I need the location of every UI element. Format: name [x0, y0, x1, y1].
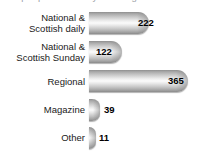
bar-value-magazine: 39 — [104, 99, 115, 121]
category-label-national-scottish-sunday: National & Scottish Sunday — [0, 41, 85, 63]
bar-other — [89, 127, 96, 149]
category-label-other: Other — [0, 132, 85, 143]
category-label-national-scottish-daily: National & Scottish daily — [0, 12, 85, 34]
chart-plot-area: National & Scottish daily 222 National &… — [0, 8, 198, 153]
bar-value-national-scottish-daily: 222 — [138, 12, 154, 34]
bar-value-national-scottish-sunday: 122 — [96, 41, 112, 63]
chart-title: ...per publication by title/magazine/oth… — [0, 0, 198, 3]
bar-value-other: 11 — [99, 127, 109, 149]
bar-value-regional: 365 — [168, 70, 184, 92]
category-label-magazine: Magazine — [0, 104, 85, 115]
category-label-regional: Regional — [0, 76, 85, 87]
bar-magazine — [89, 99, 100, 121]
